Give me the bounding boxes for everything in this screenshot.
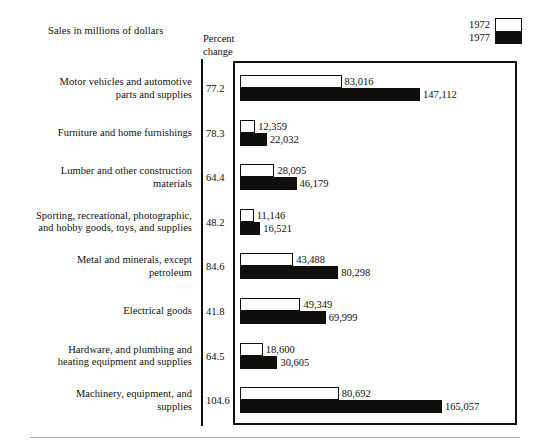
percent-change-axis-title: Percent change <box>203 33 263 58</box>
row-category-line1: Lumber and other construction <box>10 165 192 178</box>
row-bars: 49,34969,999 <box>240 289 536 333</box>
bar-line-1977: 80,298 <box>240 266 536 279</box>
bar-value-label-1977: 80,298 <box>341 266 370 279</box>
bar-line-1972: 28,095 <box>240 164 536 177</box>
row-bars: 12,35922,032 <box>240 111 536 155</box>
bar-value-label-1977: 22,032 <box>270 133 299 146</box>
row-category-line1: Metal and minerals, except <box>10 254 192 267</box>
bar-line-1972: 11,146 <box>240 209 536 222</box>
row-bars: 80,692165,057 <box>240 378 536 422</box>
row-percent-change: 48.2 <box>206 216 233 227</box>
row-category-label: Motor vehicles and automotiveparts and s… <box>10 76 192 101</box>
bar-1977[interactable] <box>240 88 420 101</box>
chart-row: Hardware, and plumbing andheating equipm… <box>0 334 536 378</box>
row-category-label: Machinery, equipment, andsupplies <box>10 388 192 413</box>
bar-line-1977: 147,112 <box>240 88 536 101</box>
row-category-line2: petroleum <box>10 266 192 279</box>
bar-line-1972: 83,016 <box>240 75 536 88</box>
bar-1972[interactable] <box>240 343 263 356</box>
bar-line-1972: 49,349 <box>240 298 536 311</box>
legend-label-1972: 1972 <box>469 18 490 31</box>
row-category-line1: Machinery, equipment, and <box>10 388 192 401</box>
row-bars: 43,48880,298 <box>240 244 536 288</box>
row-category-line1: Electrical goods <box>10 305 192 318</box>
row-percent-change: 104.6 <box>206 395 233 406</box>
row-bars: 83,016147,112 <box>240 66 536 110</box>
legend-swatch <box>495 18 522 44</box>
bar-line-1977: 165,057 <box>240 400 536 413</box>
bar-1972[interactable] <box>240 253 293 266</box>
row-category-label: Hardware, and plumbing andheating equipm… <box>10 343 192 368</box>
bar-line-1977: 69,999 <box>240 311 536 324</box>
row-category-label: Furniture and home furnishings <box>10 126 192 139</box>
row-bars: 28,09546,179 <box>240 155 536 199</box>
chart-row: Electrical goods41.849,34969,999 <box>0 289 536 333</box>
row-category-label: Metal and minerals, exceptpetroleum <box>10 254 192 279</box>
bar-1977[interactable] <box>240 266 338 279</box>
bar-1972[interactable] <box>240 164 274 177</box>
row-category-line1: Motor vehicles and automotive <box>10 76 192 89</box>
bar-1972[interactable] <box>240 209 254 222</box>
legend-swatch-1977 <box>496 31 521 43</box>
bar-1972[interactable] <box>240 120 255 133</box>
row-percent-change: 78.3 <box>206 127 233 138</box>
row-bars: 11,14616,521 <box>240 200 536 244</box>
bar-value-label-1972: 80,692 <box>342 387 371 400</box>
row-category-line1: Furniture and home furnishings <box>10 126 192 139</box>
chart-row: Motor vehicles and automotiveparts and s… <box>0 66 536 110</box>
bar-line-1977: 46,179 <box>240 177 536 190</box>
legend-label-1977: 1977 <box>469 31 490 44</box>
bar-1972[interactable] <box>240 387 339 400</box>
row-category-line2: and hobby goods, toys, and supplies <box>10 222 192 235</box>
bar-value-label-1977: 147,112 <box>423 88 457 101</box>
row-percent-change: 41.8 <box>206 306 233 317</box>
row-category-label: Electrical goods <box>10 305 192 318</box>
bar-value-label-1972: 28,095 <box>277 164 306 177</box>
chart-row: Lumber and other constructionmaterials64… <box>0 155 536 199</box>
legend-swatch-1972 <box>496 19 521 31</box>
chart-row: Machinery, equipment, andsupplies104.680… <box>0 378 536 422</box>
legend-labels: 1972 1977 <box>469 18 490 44</box>
bar-value-label-1972: 83,016 <box>345 75 374 88</box>
bar-1977[interactable] <box>240 133 267 146</box>
bar-1977[interactable] <box>240 400 442 413</box>
bar-line-1977: 22,032 <box>240 133 536 146</box>
legend: 1972 1977 <box>469 18 522 44</box>
row-category-line1: Hardware, and plumbing and <box>10 343 192 356</box>
chart-row: Sporting, recreational, photographic,and… <box>0 200 536 244</box>
bar-value-label-1977: 30,605 <box>280 356 309 369</box>
row-category-label: Lumber and other constructionmaterials <box>10 165 192 190</box>
bar-value-label-1972: 18,600 <box>266 343 295 356</box>
bar-value-label-1977: 69,999 <box>329 311 358 324</box>
row-category-line2: parts and supplies <box>10 88 192 101</box>
page-title: Sales in millions of dollars <box>48 25 163 36</box>
percent-axis-title-line2: change <box>203 46 263 59</box>
bar-1977[interactable] <box>240 311 326 324</box>
row-percent-change: 64.5 <box>206 350 233 361</box>
bar-line-1972: 43,488 <box>240 253 536 266</box>
bar-value-label-1972: 49,349 <box>303 298 332 311</box>
row-category-line2: materials <box>10 177 192 190</box>
row-bars: 18,60030,605 <box>240 334 536 378</box>
bar-value-label-1977: 46,179 <box>300 177 329 190</box>
row-category-line1: Sporting, recreational, photographic, <box>10 209 192 222</box>
row-percent-change: 64.4 <box>206 172 233 183</box>
bar-1972[interactable] <box>240 298 300 311</box>
row-category-line2: supplies <box>10 400 192 413</box>
bar-value-label-1977: 165,057 <box>445 400 479 413</box>
bar-value-label-1972: 12,359 <box>258 120 287 133</box>
row-percent-change: 77.2 <box>206 83 233 94</box>
row-percent-change: 84.6 <box>206 261 233 272</box>
bottom-rule <box>30 437 520 438</box>
row-category-label: Sporting, recreational, photographic,and… <box>10 209 192 234</box>
bar-line-1977: 30,605 <box>240 356 536 369</box>
bar-1972[interactable] <box>240 75 342 88</box>
bar-line-1972: 12,359 <box>240 120 536 133</box>
bar-1977[interactable] <box>240 222 260 235</box>
chart-row: Furniture and home furnishings78.312,359… <box>0 111 536 155</box>
bar-1977[interactable] <box>240 356 277 369</box>
bar-value-label-1972: 43,488 <box>296 253 325 266</box>
bar-line-1977: 16,521 <box>240 222 536 235</box>
chart-row: Metal and minerals, exceptpetroleum84.64… <box>0 244 536 288</box>
bar-1977[interactable] <box>240 177 297 190</box>
